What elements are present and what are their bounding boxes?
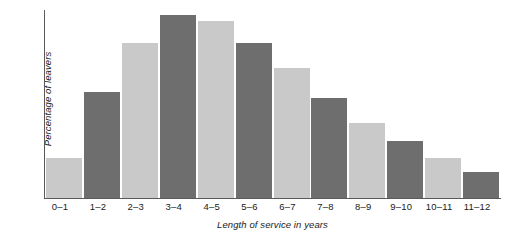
x-tick-label: 11–12 <box>455 201 499 212</box>
bar[interactable] <box>274 68 310 198</box>
bar[interactable] <box>463 172 499 198</box>
bar-slot <box>160 10 196 198</box>
bar-chart-figure: Percentage of leavers 0–11–22–33–44–55–6… <box>0 0 525 243</box>
bar-slot <box>46 10 82 198</box>
x-axis-title: Length of service in years <box>44 219 501 230</box>
bar[interactable] <box>425 158 461 198</box>
bar-slot <box>84 10 120 198</box>
plot-area <box>46 10 501 198</box>
bar-slot <box>274 10 310 198</box>
bar-slot <box>387 10 423 198</box>
bar-slot <box>236 10 272 198</box>
bar[interactable] <box>84 92 120 198</box>
bar[interactable] <box>198 21 234 198</box>
bar[interactable] <box>387 141 423 198</box>
bar[interactable] <box>349 123 385 198</box>
bar-slot <box>198 10 234 198</box>
bar-slot <box>311 10 347 198</box>
bar[interactable] <box>236 43 272 198</box>
bar-slot <box>349 10 385 198</box>
bar-slot <box>425 10 461 198</box>
bar-slot <box>463 10 499 198</box>
bar[interactable] <box>311 98 347 198</box>
x-axis-tick-labels: 0–11–22–33–44–55–66–77–88–99–1010–1111–1… <box>46 201 501 217</box>
x-axis-line <box>44 198 501 199</box>
bar[interactable] <box>46 158 82 198</box>
bar[interactable] <box>122 43 158 198</box>
bar[interactable] <box>160 15 196 198</box>
bar-slot <box>122 10 158 198</box>
y-axis-line <box>44 10 45 198</box>
